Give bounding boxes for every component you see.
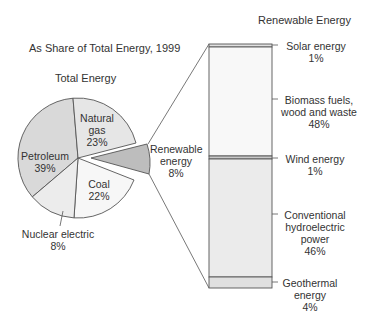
- connector-line-bottom: [149, 174, 209, 288]
- label-renewable: Renewableenergy8%: [150, 143, 202, 179]
- bar-segment-biomass: [209, 47, 272, 156]
- label-wind: Wind energy1%: [279, 153, 351, 177]
- label-geothermal: Geothermalenergy4%: [278, 277, 342, 313]
- chart-subtitle: As Share of Total Energy, 1999: [29, 42, 180, 54]
- stacked-bar: [209, 44, 272, 288]
- label-petroleum: Petroleum39%: [20, 150, 70, 174]
- label-coal: Coal22%: [85, 178, 113, 202]
- pie-title: Total Energy: [55, 72, 116, 84]
- bar-segment-geothermal: [209, 277, 272, 288]
- label-nuclear: Nuclear electric8%: [18, 228, 98, 252]
- label-natural-gas: Naturalgas23%: [77, 112, 117, 148]
- bar-title: Renewable Energy: [258, 14, 351, 26]
- label-solar: Solar energy1%: [279, 40, 353, 64]
- bar-segment-hydro: [209, 159, 272, 277]
- label-biomass: Biomass fuels,wood and waste48%: [277, 94, 361, 130]
- label-hydro: Conventionalhydroelectricpower46%: [278, 209, 352, 257]
- connector-line-top: [148, 44, 209, 144]
